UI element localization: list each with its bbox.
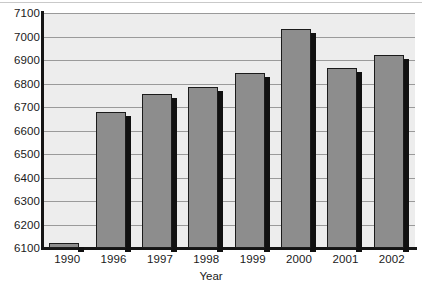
bar [327, 68, 357, 248]
x-axis-tick-label: 1997 [137, 253, 183, 265]
x-axis-tick-label: 1998 [183, 253, 229, 265]
bar [235, 73, 265, 248]
bar-body [281, 29, 311, 248]
y-axis-tick-label: 7100 [0, 7, 40, 19]
y-axis-tick-labels: 6100620063006400650066006700680069007000… [0, 0, 40, 291]
bar-chart: 6100620063006400650066006700680069007000… [0, 0, 422, 291]
y-axis-tick-label: 6900 [0, 54, 40, 66]
bar-body [188, 87, 218, 248]
y-axis-tick-label: 6700 [0, 101, 40, 113]
x-axis-tick-label: 2000 [276, 253, 322, 265]
bar [49, 243, 79, 248]
bar [188, 87, 218, 248]
bar [96, 112, 126, 248]
y-axis-tick-label: 6300 [0, 195, 40, 207]
y-axis-tick-label: 6400 [0, 172, 40, 184]
y-axis-tick-label: 6600 [0, 125, 40, 137]
top-divider-rule [0, 2, 422, 3]
x-axis-tick-label: 2002 [369, 253, 415, 265]
y-axis-tick-label: 6200 [0, 219, 40, 231]
bars-group [44, 13, 415, 248]
x-axis-tick-label: 1996 [90, 253, 136, 265]
y-axis-tick-label: 6500 [0, 148, 40, 160]
x-axis-title: Year [0, 270, 422, 282]
bar-body [327, 68, 357, 248]
x-axis-tick-label: 2001 [322, 253, 368, 265]
y-axis-tick-label: 6800 [0, 78, 40, 90]
bar-body [96, 112, 126, 248]
bar-shadow [78, 247, 84, 252]
y-axis-tick-label: 7000 [0, 31, 40, 43]
bar [374, 55, 404, 248]
y-axis-tick-label: 6100 [0, 242, 40, 254]
bar-body [142, 94, 172, 248]
bar [142, 94, 172, 248]
bar-body [49, 243, 79, 248]
x-axis-tick-label: 1999 [230, 253, 276, 265]
bar-body [374, 55, 404, 248]
bar-body [235, 73, 265, 248]
x-axis-tick-label: 1990 [44, 253, 90, 265]
bar [281, 29, 311, 248]
